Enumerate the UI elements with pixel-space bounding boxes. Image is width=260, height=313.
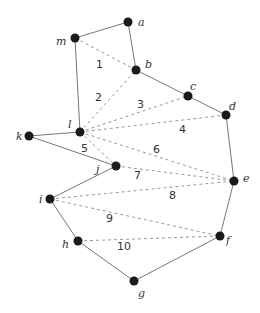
edge-a-b <box>128 22 136 70</box>
diagonal-8 <box>50 181 234 199</box>
edge-f-g <box>134 236 220 281</box>
edge-c-d <box>188 96 226 115</box>
diagonal-6 <box>80 132 234 181</box>
vertex-label: k <box>16 130 23 143</box>
edge-m-a <box>75 22 128 38</box>
diagonal-2 <box>80 70 136 132</box>
diagonal-label: 10 <box>117 240 131 253</box>
vertex-label: g <box>138 287 145 300</box>
diagonal-label: 9 <box>106 212 113 225</box>
diagonal-label: 6 <box>153 143 160 156</box>
diagonal-1 <box>75 38 136 70</box>
vertex-label: l <box>68 118 72 131</box>
vertex-label: i <box>39 193 43 206</box>
diagonal-9 <box>50 199 220 236</box>
vertex-label: m <box>56 35 66 48</box>
edge-d-e <box>226 115 234 181</box>
vertex-k <box>25 132 34 141</box>
edge-j-k <box>29 136 116 166</box>
diagonal-label: 5 <box>81 142 88 155</box>
edge-b-c <box>136 70 188 96</box>
vertex-label: h <box>62 238 69 251</box>
vertices <box>25 18 239 286</box>
diagonal-10 <box>78 236 220 241</box>
edge-k-l <box>29 132 80 136</box>
vertex-e <box>230 177 239 186</box>
edge-h-i <box>50 199 78 241</box>
vertex-h <box>74 237 83 246</box>
vertex-f <box>216 232 225 241</box>
vertex-g <box>130 277 139 286</box>
vertex-label: e <box>243 172 250 185</box>
vertex-a <box>124 18 133 27</box>
labels: 12345678910ambcdlkjeifhg <box>16 16 250 300</box>
diagonal-label: 3 <box>137 98 144 111</box>
vertex-label: f <box>225 234 232 247</box>
vertex-i <box>46 195 55 204</box>
vertex-j <box>112 162 121 171</box>
polygon-edges <box>29 22 234 281</box>
vertex-label: d <box>229 100 236 113</box>
vertex-label: a <box>138 16 145 29</box>
vertex-l <box>76 128 85 137</box>
edge-l-m <box>75 38 80 132</box>
diagonal-label: 1 <box>96 58 103 71</box>
diagonal-label: 8 <box>169 189 176 202</box>
diagonal-label: 7 <box>134 169 141 182</box>
vertex-label: j <box>93 163 100 176</box>
vertex-b <box>132 66 141 75</box>
edge-e-f <box>220 181 234 236</box>
polygon-triangulation-diagram: 12345678910ambcdlkjeifhg <box>0 0 260 313</box>
edge-i-j <box>50 166 116 199</box>
vertex-m <box>71 34 80 43</box>
diagonal-label: 4 <box>179 123 186 136</box>
vertex-label: c <box>190 80 196 93</box>
diagonal-4 <box>80 115 226 132</box>
vertex-label: b <box>145 58 152 71</box>
dashed-diagonals <box>50 38 234 241</box>
diagonal-label: 2 <box>95 91 102 104</box>
